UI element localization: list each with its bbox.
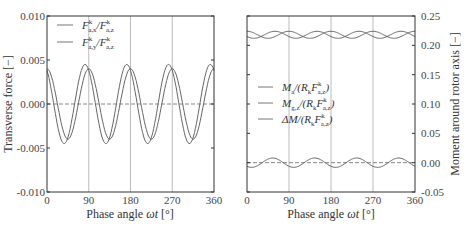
x-tick-label: 360: [407, 194, 424, 206]
legend-label-fay: Fka,y/Fka,z: [81, 35, 114, 51]
y-tick-label: 0.000: [20, 98, 45, 110]
y-tick-label: 0.005: [20, 54, 45, 66]
x-tick-label: 90: [83, 194, 95, 206]
y-tick-label: 0.05: [421, 127, 441, 139]
left-x-axis-label: Phase angle ωt [°]: [86, 207, 174, 221]
right-legend: Ma/(RkFka,z) Mg,z/(RkFka,z) ΔM/(RkFka,z): [258, 80, 335, 128]
legend-label-ma: Ma/(RkFka,z): [281, 80, 329, 96]
x-tick-label: 0: [44, 194, 50, 206]
x-tick-label: 90: [284, 194, 296, 206]
y-tick-label: 0.00: [421, 157, 441, 169]
left-legend: Fka,x/Fka,z Fka,y/Fka,z: [57, 18, 114, 51]
y-tick-label: 0.15: [421, 69, 441, 81]
right-y-axis-label: Moment around rotor axis [−]: [448, 32, 462, 175]
figure: 0.0100.0050.000-0.005-0.010 090180270360…: [0, 0, 467, 225]
legend-label-fax: Fka,x/Fka,z: [81, 18, 114, 34]
right-x-axis-label: Phase angle ωt [°]: [287, 207, 375, 221]
y-tick-label: -0.010: [17, 186, 46, 198]
x-tick-label: 0: [244, 194, 250, 206]
x-tick-label: 180: [323, 194, 340, 206]
left-y-axis-label: Transverse force [−]: [1, 55, 15, 153]
x-tick-label: 180: [122, 194, 139, 206]
right-x-tick-labels: 090180270360: [244, 194, 424, 206]
x-tick-label: 360: [206, 194, 223, 206]
y-tick-label: 0.10: [421, 98, 441, 110]
left-panel: 0.0100.0050.000-0.005-0.010 090180270360…: [1, 10, 223, 221]
y-tick-label: 0.25: [421, 10, 441, 22]
x-tick-label: 270: [365, 194, 382, 206]
y-tick-label: 0.010: [20, 10, 45, 22]
y-tick-label: -0.05: [421, 186, 444, 198]
left-x-tick-labels: 090180270360: [44, 194, 223, 206]
y-tick-label: 0.20: [421, 39, 441, 51]
x-tick-label: 270: [164, 194, 181, 206]
right-panel: 0.250.200.150.100.050.00-0.05 0901802703…: [244, 10, 462, 221]
y-tick-label: -0.005: [17, 142, 46, 154]
